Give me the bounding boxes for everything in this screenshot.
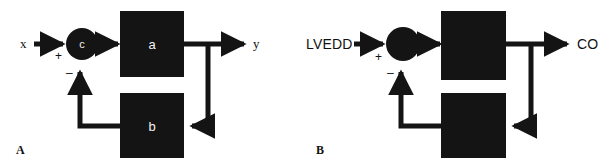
- panel-b: + – LVEDD CO B: [301, 0, 603, 168]
- feedback-block: [441, 93, 506, 158]
- panel-letter-b: B: [316, 144, 324, 156]
- forward-block-a-label: a: [120, 38, 184, 51]
- wire-feedback-block-to-summer: [80, 72, 120, 126]
- output-label-co: CO: [577, 37, 598, 51]
- minus-sign-b: –: [387, 67, 394, 79]
- panel-a: a b c + – x y A: [0, 0, 302, 168]
- plus-sign-a: +: [55, 50, 62, 62]
- summing-junction-c: c: [66, 28, 98, 60]
- feedback-block-b-label: b: [120, 119, 184, 132]
- figure-root: a b c + – x y A: [0, 0, 603, 168]
- wire-output-tap-to-feedback-block: [514, 44, 531, 126]
- forward-block-a: a: [120, 11, 184, 77]
- summing-junction-c-label: c: [66, 39, 98, 50]
- input-label-lvedd: LVEDD: [306, 37, 353, 51]
- minus-sign-a: –: [66, 67, 73, 79]
- input-label-x: x: [20, 37, 27, 50]
- plus-sign-b: +: [375, 51, 382, 63]
- output-label-y: y: [253, 37, 260, 50]
- wire-output-tap-to-feedback-block: [192, 44, 208, 126]
- forward-block: [441, 11, 506, 80]
- panel-letter-a: A: [16, 144, 25, 156]
- summing-junction: [386, 27, 420, 61]
- wire-feedback-block-to-summer: [401, 72, 442, 126]
- feedback-block-b: b: [120, 93, 184, 158]
